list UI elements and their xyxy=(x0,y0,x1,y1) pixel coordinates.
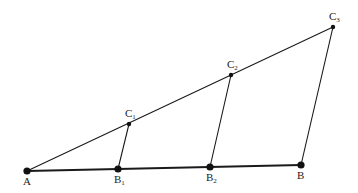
label-c3: C3 xyxy=(329,10,340,24)
segments-group xyxy=(27,27,333,171)
segment-c2-b2 xyxy=(210,75,231,167)
label-b2: B2 xyxy=(206,171,217,185)
label-b: B xyxy=(297,169,304,181)
segment-c3-b xyxy=(301,27,333,165)
label-subscript-b2: 2 xyxy=(213,177,217,185)
point-c2 xyxy=(229,73,233,77)
point-b2 xyxy=(206,163,213,170)
label-c2: C2 xyxy=(227,58,238,72)
point-c1 xyxy=(127,122,131,126)
label-c1: C1 xyxy=(125,107,136,121)
label-subscript-c2: 2 xyxy=(234,64,238,72)
label-subscript-b1: 1 xyxy=(121,179,125,187)
segment-a-b xyxy=(27,165,301,171)
point-b1 xyxy=(114,165,121,172)
point-a xyxy=(23,167,30,174)
point-b xyxy=(297,161,304,168)
geometric-diagram: AB1B2BC1C2C3 xyxy=(0,0,358,193)
label-b1: B1 xyxy=(114,173,125,187)
segment-a-c3 xyxy=(27,27,333,171)
label-a: A xyxy=(23,175,31,187)
label-subscript-c3: 3 xyxy=(336,16,340,24)
point-c3 xyxy=(331,25,335,29)
label-subscript-c1: 1 xyxy=(132,113,136,121)
segment-c1-b1 xyxy=(118,124,129,169)
